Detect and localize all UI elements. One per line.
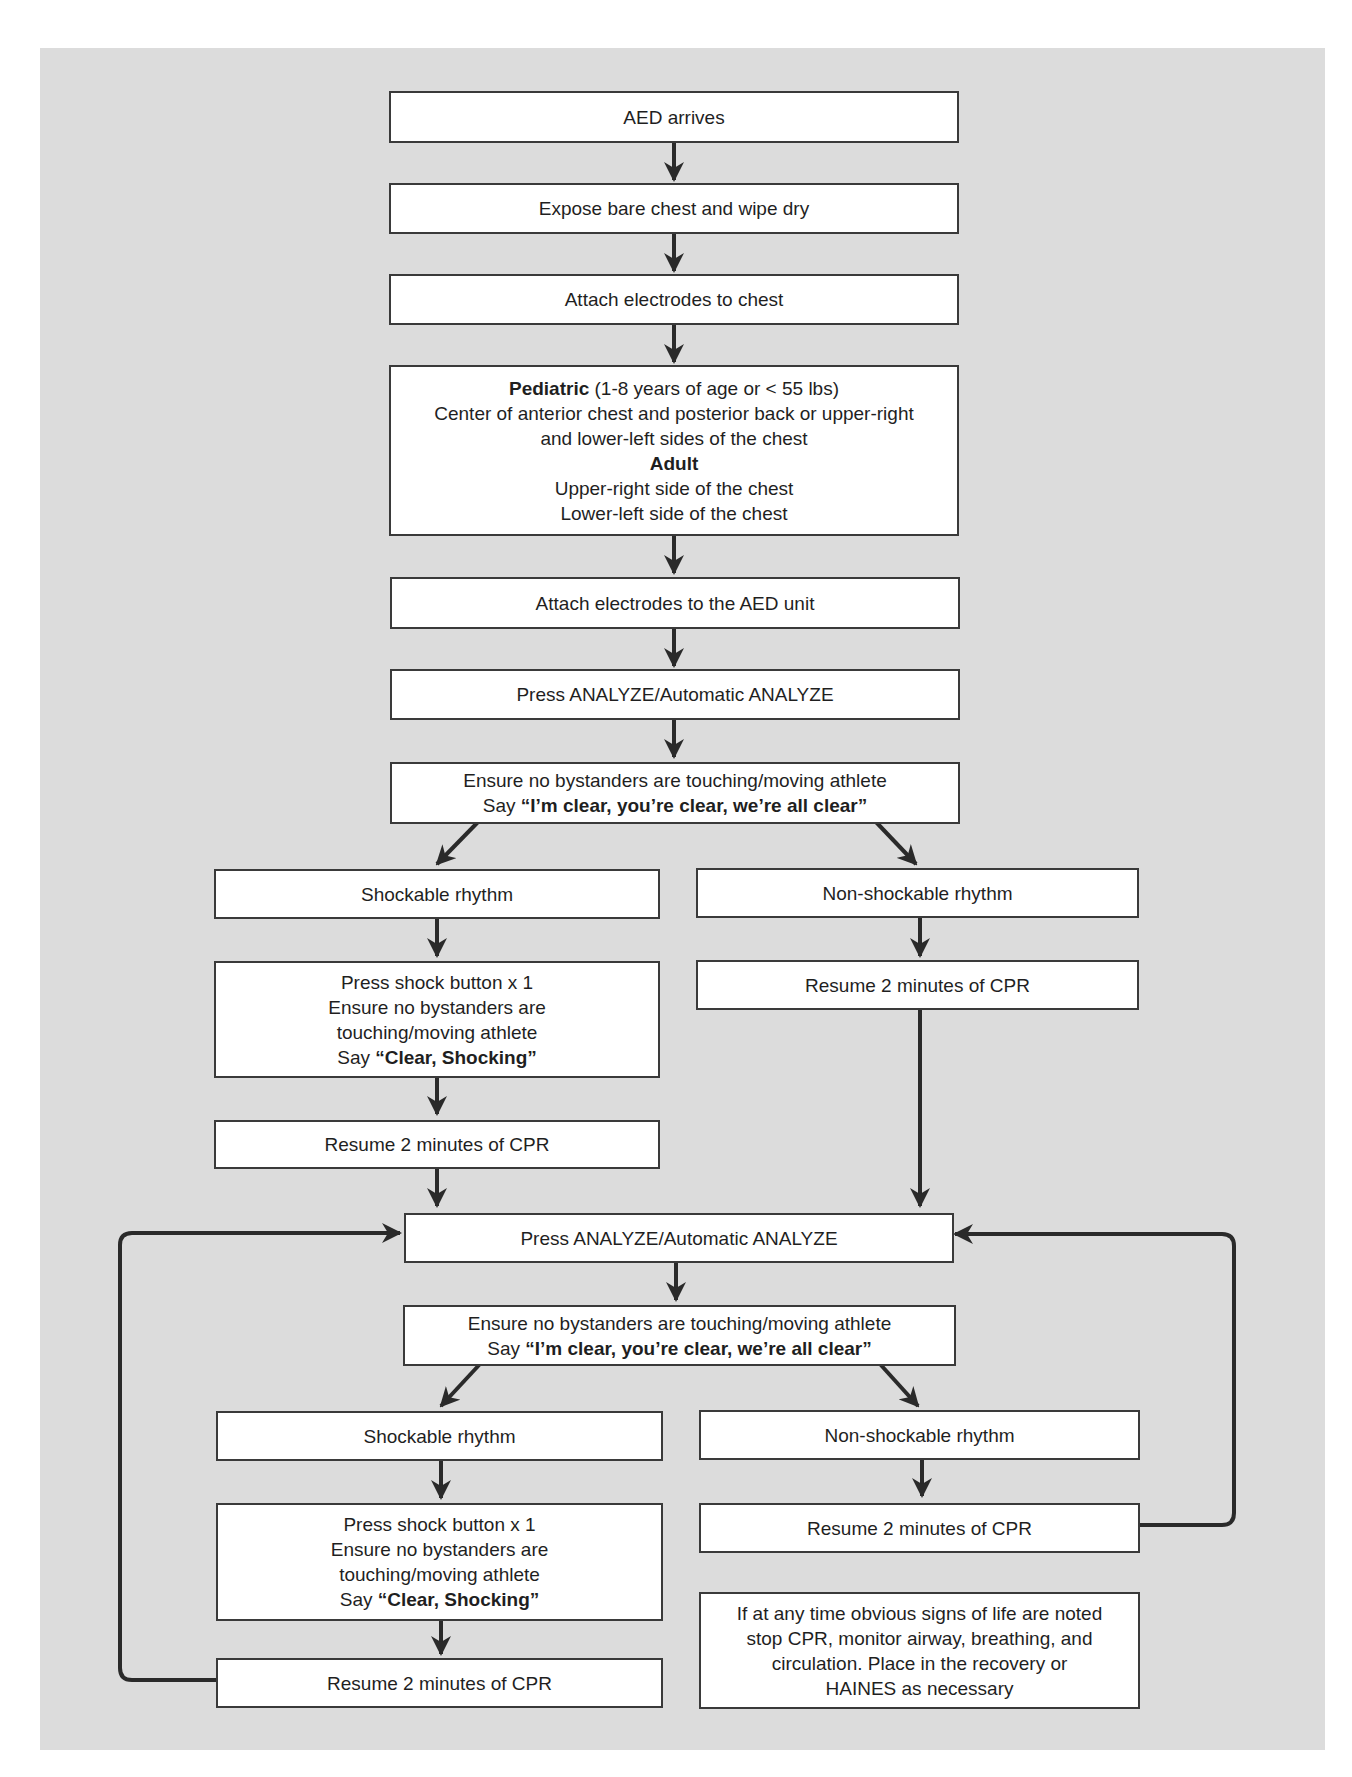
step-text: Attach electrodes to the AED unit — [536, 591, 815, 616]
signs-of-life-note: If at any time obvious signs of life are… — [699, 1592, 1140, 1709]
step-clear-2: Ensure no bystanders are touching/moving… — [403, 1305, 956, 1366]
step-text: Resume 2 minutes of CPR — [325, 1132, 550, 1157]
step-analyze-2: Press ANALYZE/Automatic ANALYZE — [404, 1213, 954, 1263]
clear-line2: Say “I’m clear, you’re clear, we’re all … — [487, 1336, 871, 1361]
adult-placement-line1: Upper-right side of the chest — [555, 476, 794, 501]
step-analyze-1: Press ANALYZE/Automatic ANALYZE — [390, 669, 960, 720]
step-text: Press ANALYZE/Automatic ANALYZE — [520, 1226, 837, 1251]
step-text: Non-shockable rhythm — [822, 881, 1012, 906]
pediatric-placement-line3: and lower-left sides of the chest — [540, 426, 807, 451]
pediatric-line: Pediatric (1-8 years of age or < 55 lbs) — [509, 376, 839, 401]
step-text: Attach electrodes to chest — [565, 287, 784, 312]
step-shockable-1: Shockable rhythm — [214, 869, 660, 919]
step-text: Press ANALYZE/Automatic ANALYZE — [516, 682, 833, 707]
step-non-shockable-2: Non-shockable rhythm — [699, 1410, 1140, 1460]
step-shock-cpr-1: Resume 2 minutes of CPR — [214, 1120, 660, 1169]
step-shock-cpr-2: Resume 2 minutes of CPR — [216, 1658, 663, 1708]
shock-quote: “Clear, Shocking” — [378, 1589, 540, 1610]
shock-line2: Ensure no bystanders are — [331, 1537, 549, 1562]
step-text: Non-shockable rhythm — [824, 1423, 1014, 1448]
step-text: Resume 2 minutes of CPR — [805, 973, 1030, 998]
clear-line1: Ensure no bystanders are touching/moving… — [468, 1311, 892, 1336]
step-attach-electrodes-chest: Attach electrodes to chest — [389, 274, 959, 325]
clear-line1: Ensure no bystanders are touching/moving… — [463, 768, 887, 793]
shock-line1: Press shock button x 1 — [341, 970, 533, 995]
adult-label: Adult — [650, 451, 699, 476]
step-non-shock-cpr-2: Resume 2 minutes of CPR — [699, 1503, 1140, 1553]
shock-line2: Ensure no bystanders are — [328, 995, 546, 1020]
shock-line4: Say “Clear, Shocking” — [337, 1045, 537, 1070]
clear-quote: “I’m clear, you’re clear, we’re all clea… — [521, 795, 867, 816]
step-shock-2: Press shock button x 1 Ensure no bystand… — [216, 1503, 663, 1621]
shock-line1: Press shock button x 1 — [343, 1512, 535, 1537]
step-attach-electrodes-unit: Attach electrodes to the AED unit — [390, 577, 960, 629]
shock-quote: “Clear, Shocking” — [375, 1047, 537, 1068]
say-label: Say — [337, 1047, 375, 1068]
step-non-shock-cpr-1: Resume 2 minutes of CPR — [696, 960, 1139, 1010]
step-text: Expose bare chest and wipe dry — [539, 196, 809, 221]
pediatric-criteria: (1-8 years of age or < 55 lbs) — [589, 378, 839, 399]
shock-line3: touching/moving athlete — [337, 1020, 538, 1045]
step-shockable-2: Shockable rhythm — [216, 1411, 663, 1461]
step-electrode-placement: Pediatric (1-8 years of age or < 55 lbs)… — [389, 365, 959, 536]
clear-quote: “I’m clear, you’re clear, we’re all clea… — [525, 1338, 871, 1359]
step-clear-1: Ensure no bystanders are touching/moving… — [390, 762, 960, 824]
say-label: Say — [340, 1589, 378, 1610]
note-line3: circulation. Place in the recovery or — [772, 1651, 1068, 1676]
pediatric-label: Pediatric — [509, 378, 589, 399]
shock-line3: touching/moving athlete — [339, 1562, 540, 1587]
pediatric-placement-line2: Center of anterior chest and posterior b… — [434, 401, 913, 426]
say-label: Say — [487, 1338, 525, 1359]
step-shock-1: Press shock button x 1 Ensure no bystand… — [214, 961, 660, 1078]
step-text: AED arrives — [623, 105, 724, 130]
note-line1: If at any time obvious signs of life are… — [737, 1601, 1102, 1626]
step-text: Resume 2 minutes of CPR — [327, 1671, 552, 1696]
note-line2: stop CPR, monitor airway, breathing, and — [746, 1626, 1092, 1651]
step-text: Resume 2 minutes of CPR — [807, 1516, 1032, 1541]
clear-line2: Say “I’m clear, you’re clear, we’re all … — [483, 793, 867, 818]
step-text: Shockable rhythm — [363, 1424, 515, 1449]
step-expose-chest: Expose bare chest and wipe dry — [389, 183, 959, 234]
say-label: Say — [483, 795, 521, 816]
step-aed-arrives: AED arrives — [389, 91, 959, 143]
step-non-shockable-1: Non-shockable rhythm — [696, 868, 1139, 918]
adult-placement-line2: Lower-left side of the chest — [560, 501, 787, 526]
shock-line4: Say “Clear, Shocking” — [340, 1587, 540, 1612]
step-text: Shockable rhythm — [361, 882, 513, 907]
note-line4: HAINES as necessary — [826, 1676, 1014, 1701]
